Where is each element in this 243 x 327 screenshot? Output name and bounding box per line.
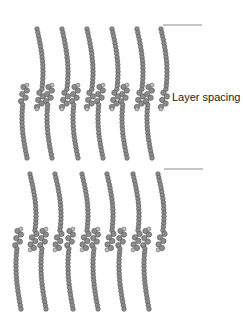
molecule-chains <box>13 27 170 312</box>
molecule-chain <box>94 83 105 160</box>
molecule-chain <box>59 27 70 111</box>
molecule-chain <box>13 227 24 311</box>
molecule-chain <box>143 83 154 160</box>
molecule-chain <box>69 83 80 160</box>
molecule-chain <box>53 172 64 252</box>
molecule-chain <box>141 227 152 311</box>
molecule-chain <box>134 27 145 111</box>
molecule-chain <box>105 172 117 252</box>
molecule-chain <box>156 172 168 252</box>
molecule-chain <box>18 83 29 160</box>
layer-spacing-label: Layer spacing <box>172 91 241 103</box>
molecule-chain <box>28 172 40 252</box>
molecule-chain <box>118 83 129 160</box>
molecule-chain <box>90 227 101 311</box>
molecular-layer-diagram <box>0 0 243 327</box>
molecule-chain <box>80 172 92 252</box>
molecule-chain <box>38 227 49 311</box>
molecule-chain <box>65 227 76 311</box>
molecule-chain <box>116 227 127 311</box>
molecule-chain <box>34 27 45 111</box>
molecule-chain <box>131 172 143 252</box>
molecule-chain <box>109 27 120 111</box>
molecule-chain <box>84 27 95 111</box>
molecule-chain <box>43 83 54 160</box>
molecule-chain <box>158 27 169 111</box>
